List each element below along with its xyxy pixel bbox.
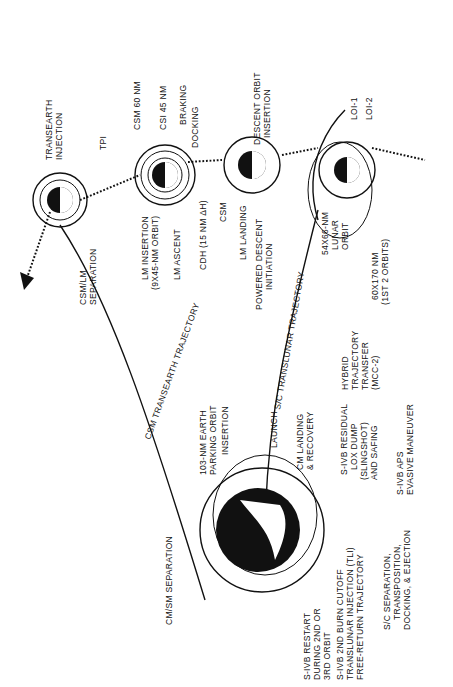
svg-text:CSI 45 NM: CSI 45 NM <box>158 86 168 130</box>
svg-text:(MCC-2): (MCC-2) <box>370 355 380 390</box>
svg-text:TPI: TPI <box>98 136 108 150</box>
svg-text:TRANSEARTH: TRANSEARTH <box>44 100 54 160</box>
moon-transearth <box>33 173 87 227</box>
svg-text:DOCKING, & EJECTION: DOCKING, & EJECTION <box>402 530 412 630</box>
svg-text:S-IVB 2ND BURN CUTOFF: S-IVB 2ND BURN CUTOFF <box>335 569 345 680</box>
svg-text:LOI-2: LOI-2 <box>364 97 374 120</box>
svg-text:LAUNCH: LAUNCH <box>269 411 279 448</box>
svg-text:POWERED DESCENT: POWERED DESCENT <box>254 219 264 310</box>
svg-text:CM LANDING: CM LANDING <box>295 414 305 470</box>
svg-text:(1ST 2 ORBITS): (1ST 2 ORBITS) <box>380 239 390 305</box>
svg-text:TRANSLUNAR INJECTION (TLI): TRANSLUNAR INJECTION (TLI) <box>345 547 355 680</box>
svg-text:S/C SEPARATION,: S/C SEPARATION, <box>382 553 392 630</box>
svg-text:60X170 NM: 60X170 NM <box>370 252 380 300</box>
svg-text:DESCENT ORBIT: DESCENT ORBIT <box>252 72 262 145</box>
svg-text:FREE-RETURN TRAJECTORY: FREE-RETURN TRAJECTORY <box>355 554 365 680</box>
moon-rendezvous <box>135 145 195 205</box>
svg-text:TRAJECTORY: TRAJECTORY <box>350 331 360 390</box>
svg-text:LOI-1: LOI-1 <box>349 97 359 120</box>
svg-text:(9X45-NM ORBIT): (9X45-NM ORBIT) <box>150 216 160 290</box>
arrow-head-icon <box>20 272 34 290</box>
svg-text:S-IVB RESIDUAL: S-IVB RESIDUAL <box>339 404 349 475</box>
departure-arrow-line <box>28 212 50 275</box>
svg-text:CSM 60 NM: CSM 60 NM <box>132 81 142 130</box>
svg-text:ORBIT: ORBIT <box>340 223 350 250</box>
svg-text:103-NM EARTH: 103-NM EARTH <box>198 410 208 475</box>
svg-text:EVASIVE MANEUVER: EVASIVE MANEUVER <box>405 404 415 495</box>
svg-text:CSM TRANSEARTH TRAJECTORY: CSM TRANSEARTH TRAJECTORY <box>142 301 201 440</box>
svg-text:HYBRID: HYBRID <box>340 356 350 390</box>
svg-text:CM/SM SEPARATION: CM/SM SEPARATION <box>164 536 174 625</box>
svg-text:CSM: CSM <box>218 202 228 222</box>
svg-text:INITIATION: INITIATION <box>264 243 274 290</box>
mission-profile-diagram: TRANSEARTH INJECTION CSM/LM SEPARATION T… <box>0 0 453 687</box>
svg-text:LM INSERTION: LM INSERTION <box>140 216 150 280</box>
svg-text:(SLINGSHOT): (SLINGSHOT) <box>359 422 369 480</box>
svg-text:3RD ORBIT: 3RD ORBIT <box>322 632 332 680</box>
svg-text:AND SAFING: AND SAFING <box>369 425 379 480</box>
svg-text:LOX DUMP: LOX DUMP <box>349 423 359 470</box>
svg-text:DOCKING: DOCKING <box>190 106 200 148</box>
svg-text:BRAKING: BRAKING <box>178 85 188 125</box>
svg-text:& RECOVERY: & RECOVERY <box>305 411 315 470</box>
svg-text:LM LANDING: LM LANDING <box>238 205 248 260</box>
svg-text:DURING 2ND OR: DURING 2ND OR <box>312 608 322 680</box>
svg-text:SEPARATION: SEPARATION <box>88 248 98 305</box>
svg-text:CSM/LM: CSM/LM <box>78 270 88 305</box>
svg-text:S/C TRANSLUNAR TRAJECTORY: S/C TRANSLUNAR TRAJECTORY <box>272 271 306 411</box>
svg-text:TRANSPOSITION,: TRANSPOSITION, <box>392 544 402 620</box>
svg-text:INSERTION: INSERTION <box>220 406 230 455</box>
svg-text:LM ASCENT: LM ASCENT <box>172 229 182 280</box>
svg-text:CDH (15 NM ΔH): CDH (15 NM ΔH) <box>198 200 208 270</box>
svg-text:54X66-NM: 54X66-NM <box>320 212 330 255</box>
svg-text:TRANSFER: TRANSFER <box>360 342 370 390</box>
svg-text:INJECTION: INJECTION <box>54 112 64 160</box>
labels: TRANSEARTH INJECTION CSM/LM SEPARATION T… <box>44 72 415 680</box>
svg-text:S-IVB APS: S-IVB APS <box>395 451 405 495</box>
svg-text:LUNAR: LUNAR <box>330 220 340 250</box>
svg-text:S-IVB RESTART: S-IVB RESTART <box>302 613 312 680</box>
svg-text:PARKING ORBIT: PARKING ORBIT <box>208 405 218 475</box>
diagram-canvas: TRANSEARTH INJECTION CSM/LM SEPARATION T… <box>0 0 453 687</box>
earth <box>200 455 324 592</box>
svg-text:INSERTION: INSERTION <box>262 89 272 138</box>
